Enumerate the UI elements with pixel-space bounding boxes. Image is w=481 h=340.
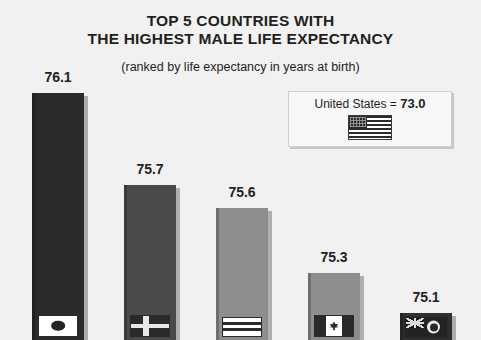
union-jack-ensign-flag-icon bbox=[404, 316, 448, 338]
legend-value: 73.0 bbox=[400, 96, 425, 111]
bar-group-3: 75.6 bbox=[216, 205, 268, 340]
bar-value-4: 75.3 bbox=[320, 249, 347, 265]
legend-united-states: United States = 73.0 bbox=[288, 91, 452, 147]
legend-label: United States = 73.0 bbox=[314, 96, 425, 111]
bar-value-1: 76.1 bbox=[44, 69, 71, 85]
vertical-triband-flag-icon bbox=[314, 315, 354, 337]
united-states-flag-icon bbox=[348, 115, 392, 140]
bar-5 bbox=[400, 313, 452, 340]
bar-group-4: 75.3 bbox=[308, 270, 360, 340]
union-jack-canton bbox=[406, 318, 424, 328]
nordic-cross-flag-icon bbox=[130, 315, 170, 337]
chart-title-line-1: TOP 5 COUNTRIES WITH bbox=[0, 12, 481, 30]
bar-1 bbox=[32, 93, 84, 340]
life-expectancy-bar-chart: TOP 5 COUNTRIES WITH THE HIGHEST MALE LI… bbox=[0, 0, 481, 340]
chart-title: TOP 5 COUNTRIES WITH THE HIGHEST MALE LI… bbox=[0, 12, 481, 48]
chart-title-line-2: THE HIGHEST MALE LIFE EXPECTANCY bbox=[0, 30, 481, 48]
legend-country-text: United States = bbox=[314, 97, 400, 111]
flag-emblem bbox=[427, 321, 440, 334]
horizontal-triband-flag-icon bbox=[222, 317, 262, 337]
bar-value-3: 75.6 bbox=[228, 184, 255, 200]
bar-group-5: 75.1 bbox=[400, 310, 452, 340]
us-flag-canton bbox=[349, 116, 367, 128]
bar-value-2: 75.7 bbox=[136, 161, 163, 177]
bar-group-1: 76.1 bbox=[32, 90, 84, 340]
japan-flag-icon bbox=[38, 315, 78, 337]
bar-group-2: 75.7 bbox=[124, 182, 176, 340]
bar-2 bbox=[124, 185, 176, 340]
chart-subtitle: (ranked by life expectancy in years at b… bbox=[0, 60, 481, 75]
bar-value-5: 75.1 bbox=[412, 289, 439, 305]
bar-3 bbox=[216, 208, 268, 340]
bar-4 bbox=[308, 273, 360, 340]
